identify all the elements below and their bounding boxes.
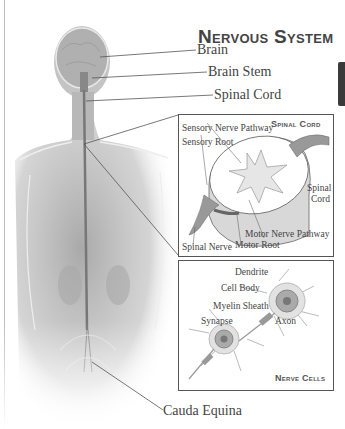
label-cell-body: Cell Body xyxy=(221,283,260,293)
label-sensory-root: Sensory Root xyxy=(182,137,233,147)
label-spinal-cord-inset-line1: Spinal xyxy=(307,183,331,193)
label-spinal-cord: Spinal Cord xyxy=(214,87,281,103)
label-brain: Brain xyxy=(197,42,228,58)
label-motor-root: Motor Root xyxy=(235,240,280,250)
label-brain-stem: Brain Stem xyxy=(208,64,271,80)
label-synapse: Synapse xyxy=(201,316,233,326)
label-spinal-cord-inset-line2: Cord xyxy=(311,194,330,204)
label-myelin-sheath: Myelin Sheath xyxy=(213,301,269,311)
nerve-cells-inset: Dendrite Cell Body Myelin Sheath Axon Sy… xyxy=(178,260,334,391)
label-dendrite: Dendrite xyxy=(235,267,268,277)
label-cauda-equina: Cauda Equina xyxy=(163,403,242,419)
label-motor-nerve-pathway: Motor Nerve Pathway xyxy=(245,229,329,239)
nerve-cells-inset-title: Nerve Cells xyxy=(275,373,325,383)
label-axon: Axon xyxy=(275,316,296,326)
label-sensory-nerve-pathway: Sensory Nerve Pathway xyxy=(182,123,273,133)
label-spinal-nerve: Spinal Nerve xyxy=(182,242,232,252)
spinal-cord-inset: Spinal Cord Sensory Nerve Pathway Sensor… xyxy=(178,114,334,257)
spinal-cord-inset-title: Spinal Cord xyxy=(271,119,321,129)
